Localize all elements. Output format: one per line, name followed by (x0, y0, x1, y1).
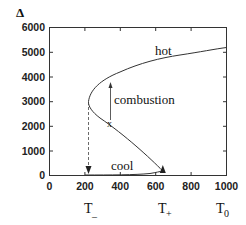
x-tick-labels: 0 200 400 600 800 1000 (47, 180, 239, 192)
y-axis-label: Δ (16, 5, 24, 20)
svg-text:200: 200 (76, 180, 94, 192)
svg-text:0: 0 (47, 180, 53, 192)
t-minus-label: T _ (84, 201, 98, 218)
svg-text:800: 800 (182, 180, 200, 192)
svg-text:1000: 1000 (215, 180, 239, 192)
svg-text:6000: 6000 (22, 21, 46, 33)
svg-text:2000: 2000 (22, 120, 46, 132)
hot-label: hot (155, 43, 172, 58)
s-curve (88, 48, 226, 172)
svg-text:0: 0 (224, 208, 229, 219)
chart: 0 1000 2000 3000 4000 5000 6000 0 200 40… (0, 0, 246, 225)
extinction-arrow-icon (86, 166, 92, 174)
svg-text:5000: 5000 (22, 46, 46, 58)
svg-text:400: 400 (112, 180, 130, 192)
combustion-arrow-icon (109, 82, 113, 88)
svg-text:3000: 3000 (22, 95, 46, 107)
y-tick-labels: 0 1000 2000 3000 4000 5000 6000 (22, 21, 46, 181)
combustion-label: combustion (114, 92, 175, 107)
cool-label: cool (111, 158, 134, 173)
x-mark-label: x (107, 118, 112, 129)
svg-text:+: + (166, 208, 172, 219)
svg-text:0: 0 (39, 169, 45, 181)
t-zero-label: T 0 (216, 201, 229, 219)
t-plus-label: T + (158, 201, 172, 219)
svg-text:1000: 1000 (22, 145, 46, 157)
svg-text:_: _ (91, 207, 98, 218)
svg-text:4000: 4000 (22, 71, 46, 83)
svg-text:600: 600 (147, 180, 165, 192)
